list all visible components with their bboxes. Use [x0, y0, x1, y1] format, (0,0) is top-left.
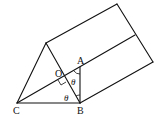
angle-arc-A — [74, 71, 80, 74]
edge-apex-C — [17, 43, 46, 103]
edge-B-back — [80, 62, 153, 103]
angle-arc-B — [76, 95, 80, 96]
label-theta-upper: θ — [71, 77, 76, 87]
edge-apex-B — [46, 43, 80, 103]
edge-apex-back — [46, 4, 117, 43]
edge-back-right — [117, 4, 153, 62]
label-theta-lower: θ — [64, 93, 69, 103]
diagram-canvas: A O C B θ θ — [0, 0, 164, 118]
label-B: B — [77, 105, 84, 116]
prism-diagram: A O C B θ θ — [0, 0, 164, 118]
label-O: O — [55, 68, 62, 79]
label-A: A — [77, 55, 85, 66]
line-C-A-back — [17, 35, 135, 103]
right-angle-marker — [58, 80, 66, 85]
label-C: C — [13, 105, 20, 116]
